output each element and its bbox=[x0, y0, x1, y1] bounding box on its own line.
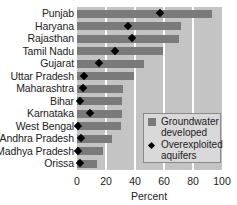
category-label: Tamil Nadu bbox=[22, 45, 74, 58]
category-label: Bihar bbox=[50, 95, 74, 108]
category-label: Uttar Pradesh bbox=[11, 70, 74, 83]
category-label: West Bengal bbox=[16, 120, 74, 133]
legend-label-groundwater-1: Groundwater bbox=[161, 116, 219, 128]
legend-bar-swatch bbox=[148, 118, 156, 126]
chart-row: Uttar Pradesh bbox=[0, 70, 237, 83]
legend-label-overexploited-1: Overexploited bbox=[161, 139, 223, 151]
legend-label-overexploited-2: aquifers bbox=[161, 150, 197, 162]
x-tick-label: 0 bbox=[74, 175, 80, 187]
groundwater-bar bbox=[77, 47, 163, 55]
groundwater-bar-chart: PunjabHaryanaRajasthanTamil NaduGujaratU… bbox=[0, 0, 237, 205]
chart-row: Punjab bbox=[0, 7, 237, 20]
chart-row: Haryana bbox=[0, 20, 237, 33]
category-label: Orissa bbox=[44, 157, 74, 170]
x-tick-label: 100 bbox=[213, 175, 231, 187]
legend-label-groundwater-2: developed bbox=[161, 127, 207, 139]
chart-row: Tamil Nadu bbox=[0, 45, 237, 58]
diamond-marker-icon bbox=[148, 142, 155, 149]
x-tick-label: 40 bbox=[129, 175, 141, 187]
chart-row: Gujarat bbox=[0, 57, 237, 70]
groundwater-bar bbox=[77, 10, 212, 18]
category-label: Madhya Pradesh bbox=[0, 145, 74, 158]
category-label: Haryana bbox=[35, 20, 74, 33]
category-label: Punjab bbox=[42, 7, 74, 20]
x-tick-label: 20 bbox=[100, 175, 112, 187]
x-tick-label: 80 bbox=[187, 175, 199, 187]
category-label: Andhra Pradesh bbox=[0, 132, 74, 145]
x-axis-label: Percent bbox=[131, 190, 167, 202]
groundwater-bar bbox=[77, 122, 121, 130]
legend: Groundwater developed Overexploited aqui… bbox=[143, 113, 221, 163]
category-label: Maharashtra bbox=[16, 82, 74, 95]
category-label: Gujarat bbox=[40, 57, 74, 70]
groundwater-bar bbox=[77, 110, 122, 118]
chart-row: Maharashtra bbox=[0, 82, 237, 95]
chart-row: Bihar bbox=[0, 95, 237, 108]
x-tick-label: 60 bbox=[158, 175, 170, 187]
category-label: Karnataka bbox=[27, 107, 74, 120]
groundwater-bar bbox=[77, 60, 144, 68]
category-label: Rajasthan bbox=[28, 32, 74, 45]
chart-row: Rajasthan bbox=[0, 32, 237, 45]
